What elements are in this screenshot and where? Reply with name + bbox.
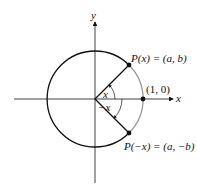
upper-point-label: P(x) = (a, b) [130,52,187,65]
point-unit [141,97,146,102]
angle-arc-positive [109,85,115,99]
y-axis-label: y [90,9,96,21]
angle-arc-negative [114,99,122,118]
lower-point-label: P(−x) = (a, −b) [123,140,195,153]
unit-circle-diagram: y x (1, 0) P(x) = (a, b) P(−x) = (a, −b)… [0,0,197,191]
unit-point-label: (1, 0) [146,83,170,96]
x-axis-label: x [175,92,181,104]
radius-upper [95,65,129,99]
point-lower [127,131,132,136]
angle-label-negative: −x [98,101,110,113]
angle-label-positive: x [102,88,108,100]
